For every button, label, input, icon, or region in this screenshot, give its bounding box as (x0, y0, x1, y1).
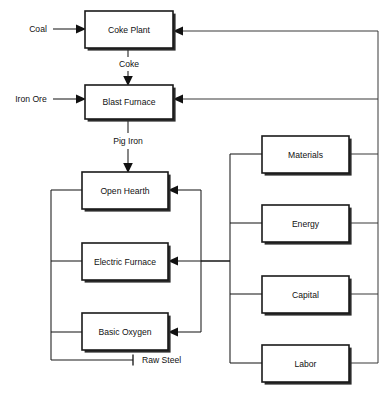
node-open-hearth[interactable]: Open Hearth (82, 172, 171, 212)
flow-diagram-canvas: Coke Plant Blast Furnace Open Hearth Ele… (0, 0, 391, 393)
edge-label-iron-ore: Iron Ore (15, 94, 47, 104)
edge-label-raw-steel: Raw Steel (142, 355, 181, 365)
edge-label-coal: Coal (29, 24, 47, 34)
node-label-electric-furnace: Electric Furnace (94, 257, 156, 267)
node-labor[interactable]: Labor (262, 345, 352, 385)
resource-node-layer: Materials Energy Capital Labor (262, 136, 352, 385)
node-electric-furnace[interactable]: Electric Furnace (82, 243, 171, 283)
node-basic-oxygen[interactable]: Basic Oxygen (82, 313, 171, 353)
node-coke-plant[interactable]: Coke Plant (85, 11, 176, 51)
node-label-blast-furnace: Blast Furnace (102, 97, 155, 107)
node-capital[interactable]: Capital (262, 276, 352, 316)
node-label-energy: Energy (292, 219, 320, 229)
node-label-labor: Labor (295, 359, 317, 369)
edge-label-pig-iron: Pig Iron (113, 136, 143, 146)
node-label-capital: Capital (292, 290, 319, 300)
node-label-open-hearth: Open Hearth (100, 186, 149, 196)
node-blast-furnace[interactable]: Blast Furnace (85, 85, 176, 122)
node-label-materials: Materials (288, 150, 323, 160)
node-energy[interactable]: Energy (262, 205, 352, 245)
node-label-coke-plant: Coke Plant (108, 25, 151, 35)
edge-label-coke: Coke (119, 59, 139, 69)
process-flow-diagram: Coke Plant Blast Furnace Open Hearth Ele… (0, 0, 391, 393)
node-label-basic-oxygen: Basic Oxygen (98, 327, 151, 337)
node-materials[interactable]: Materials (262, 136, 352, 176)
